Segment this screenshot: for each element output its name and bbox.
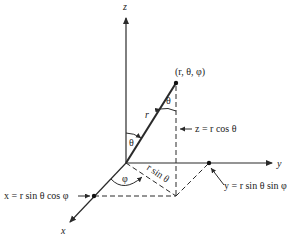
radius-label: r — [145, 109, 149, 120]
x-point-marker — [92, 194, 96, 198]
x-axis-label: x — [60, 225, 66, 236]
theta-label-bottom: θ — [129, 137, 134, 148]
point-label: (r, θ, φ) — [175, 66, 205, 78]
theta-arc-top — [160, 108, 176, 111]
point-marker — [174, 81, 178, 85]
y-formula: y = r sin θ sin φ — [224, 180, 287, 191]
y-formula-arrow — [211, 168, 224, 185]
x-axis — [70, 163, 126, 222]
y-component-dashed — [176, 163, 209, 196]
rsin-label: r sin θ — [145, 162, 172, 185]
y-axis-label: y — [276, 158, 282, 169]
y-point-marker — [207, 161, 211, 165]
theta-label-top: θ — [166, 95, 171, 106]
x-formula: x = r sin θ cos φ — [4, 190, 69, 201]
z-axis-label: z — [122, 1, 127, 12]
phi-label: φ — [122, 173, 128, 184]
spherical-coordinates-diagram: z y x (r, θ, φ) r θ θ φ r sin θ z = r co… — [0, 0, 298, 238]
z-formula: z = r cos θ — [195, 123, 237, 134]
